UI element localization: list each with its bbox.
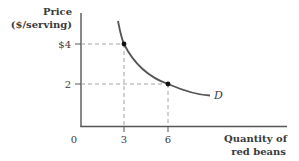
guide-lines: [81, 44, 168, 126]
y-axis-label-line1: Price: [43, 6, 72, 17]
y-tick-label-4: $4: [58, 39, 71, 50]
x-tick-label-6: 6: [165, 134, 171, 145]
curve-label: D: [213, 89, 223, 102]
x-tick-label-3: 3: [121, 134, 127, 145]
origin-label: 0: [71, 134, 77, 145]
y-tick-label-2: 2: [65, 79, 71, 90]
x-axis-label-line1: Quantity of: [224, 133, 288, 144]
demand-chart: D Price ($/serving) $4 2 0 3 6 Quantity …: [0, 0, 299, 161]
y-axis-label-line2: ($/serving): [11, 19, 72, 30]
data-point-6-2: [166, 82, 171, 87]
data-point-3-4: [122, 42, 127, 47]
x-axis-label-line2: red beans: [231, 146, 286, 157]
